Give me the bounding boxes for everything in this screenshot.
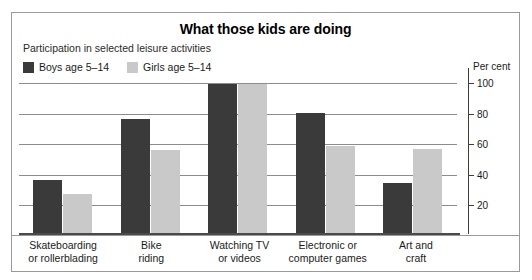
chart-figure: What those kids are doing Participation … bbox=[11, 12, 520, 272]
legend-swatch-girls bbox=[127, 62, 138, 73]
category-divider bbox=[12, 235, 519, 236]
category-label: Watching TVor videos bbox=[195, 239, 283, 265]
tick-mark-60 bbox=[468, 144, 474, 145]
bar-groups bbox=[19, 83, 457, 234]
bar-girls bbox=[326, 146, 355, 235]
tick-label-100: 100 bbox=[477, 78, 494, 89]
tick-mark-40 bbox=[468, 175, 474, 176]
tick-mark-100 bbox=[468, 83, 474, 84]
category-label-line1: Electronic or bbox=[284, 239, 372, 252]
bar-boys bbox=[33, 180, 62, 234]
category-label: Bikeriding bbox=[107, 239, 195, 265]
bar-group bbox=[19, 83, 107, 234]
y-axis-spine bbox=[468, 68, 469, 234]
category-label-line2: or rollerblading bbox=[19, 252, 107, 265]
category-label-line1: Skateboarding bbox=[19, 239, 107, 252]
tick-label-80: 80 bbox=[477, 109, 488, 120]
category-label: Skateboardingor rollerblading bbox=[19, 239, 107, 265]
bar-girls bbox=[413, 149, 442, 235]
tick-label-20: 20 bbox=[477, 200, 488, 211]
legend-label-boys: Boys age 5–14 bbox=[39, 61, 109, 73]
category-label-line1: Bike bbox=[107, 239, 195, 252]
tick-mark-80 bbox=[468, 114, 474, 115]
category-label-line2: computer games bbox=[284, 252, 372, 265]
chart-title: What those kids are doing bbox=[12, 21, 519, 37]
bar-girls bbox=[63, 194, 92, 235]
bar-boys bbox=[383, 183, 412, 234]
legend-item-girls: Girls age 5–14 bbox=[127, 61, 211, 73]
bar-boys bbox=[296, 113, 325, 235]
category-label: Art andcraft bbox=[372, 239, 460, 265]
bar-group bbox=[282, 83, 370, 234]
plot-area bbox=[19, 83, 457, 234]
category-label-line2: riding bbox=[107, 252, 195, 265]
tick-label-40: 40 bbox=[477, 170, 488, 181]
legend-swatch-boys bbox=[23, 62, 34, 73]
category-label-line2: or videos bbox=[195, 252, 283, 265]
bar-girls bbox=[238, 84, 267, 234]
bar-girls bbox=[151, 150, 180, 234]
category-label-line1: Watching TV bbox=[195, 239, 283, 252]
bar-group bbox=[107, 83, 195, 234]
legend-label-girls: Girls age 5–14 bbox=[143, 61, 211, 73]
tick-mark-20 bbox=[468, 205, 474, 206]
tick-label-60: 60 bbox=[477, 139, 488, 150]
bar-group bbox=[369, 83, 457, 234]
category-labels: Skateboardingor rollerbladingBikeridingW… bbox=[19, 239, 460, 265]
y-axis-unit-label: Per cent bbox=[473, 61, 510, 72]
bar-boys bbox=[208, 84, 237, 234]
category-label: Electronic orcomputer games bbox=[284, 239, 372, 265]
chart-legend: Boys age 5–14 Girls age 5–14 bbox=[23, 61, 211, 73]
category-label-line1: Art and bbox=[372, 239, 460, 252]
bar-group bbox=[194, 83, 282, 234]
category-label-line2: craft bbox=[372, 252, 460, 265]
chart-subtitle: Participation in selected leisure activi… bbox=[23, 42, 211, 54]
legend-item-boys: Boys age 5–14 bbox=[23, 61, 109, 73]
bar-boys bbox=[121, 119, 150, 235]
